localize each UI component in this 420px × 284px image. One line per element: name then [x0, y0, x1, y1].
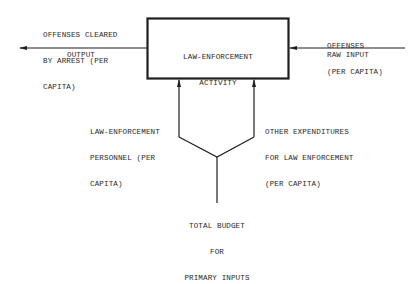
box-label-line-2: ACTIVITY	[147, 79, 289, 88]
other-expenditures-line-3: (PER CAPITA)	[265, 180, 353, 189]
budget-line-3: PRIMARY INPUTS	[167, 274, 267, 283]
budget-line-2: FOR	[167, 248, 267, 257]
raw-input-name-line-1: OFFENSES	[327, 42, 383, 51]
raw-input-role-label: RAW INPUT	[327, 51, 369, 60]
budget-line-1: TOTAL BUDGET	[167, 222, 267, 231]
other-expenditures-label: OTHER EXPENDITURES FOR LAW ENFORCEMENT (…	[265, 111, 353, 197]
other-expenditures-line-2: FOR LAW ENFORCEMENT	[265, 154, 353, 163]
personnel-input-label: LAW-ENFORCEMENT PERSONNEL (PER CAPITA)	[90, 111, 160, 197]
box-label-line-1: LAW-ENFORCEMENT	[147, 53, 289, 62]
other-expenditures-line-1: OTHER EXPENDITURES	[265, 128, 353, 137]
raw-input-name-line-2: (PER CAPITA)	[327, 68, 383, 77]
personnel-line-2: PERSONNEL (PER	[90, 154, 160, 163]
box-label: LAW-ENFORCEMENT ACTIVITY	[147, 36, 289, 96]
output-role-label: OUTPUT	[67, 51, 95, 60]
personnel-line-3: CAPITA)	[90, 180, 160, 189]
budget-label: TOTAL BUDGET FOR PRIMARY INPUTS	[167, 205, 267, 284]
personnel-line-1: LAW-ENFORCEMENT	[90, 128, 160, 137]
budget-split-lines	[179, 137, 254, 157]
output-name-line-1: OFFENSES CLEARED	[43, 31, 118, 40]
output-name-line-3: CAPITA)	[43, 83, 118, 92]
